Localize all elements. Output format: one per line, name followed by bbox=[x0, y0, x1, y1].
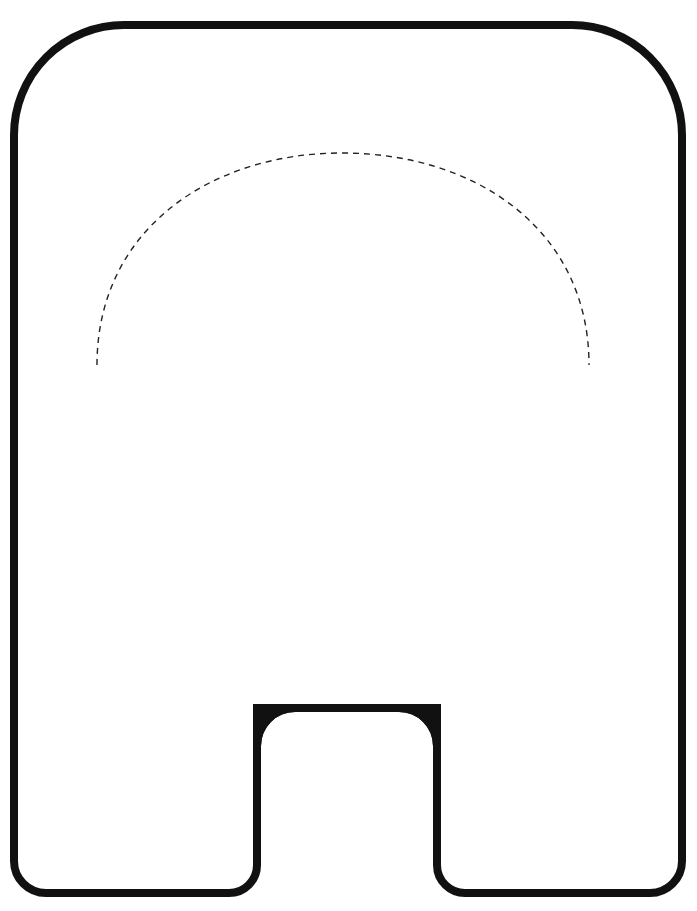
dashed-guide-arc bbox=[97, 153, 589, 365]
template-outline bbox=[14, 25, 682, 893]
template-diagram bbox=[0, 0, 697, 911]
notch-top-band bbox=[253, 704, 441, 760]
